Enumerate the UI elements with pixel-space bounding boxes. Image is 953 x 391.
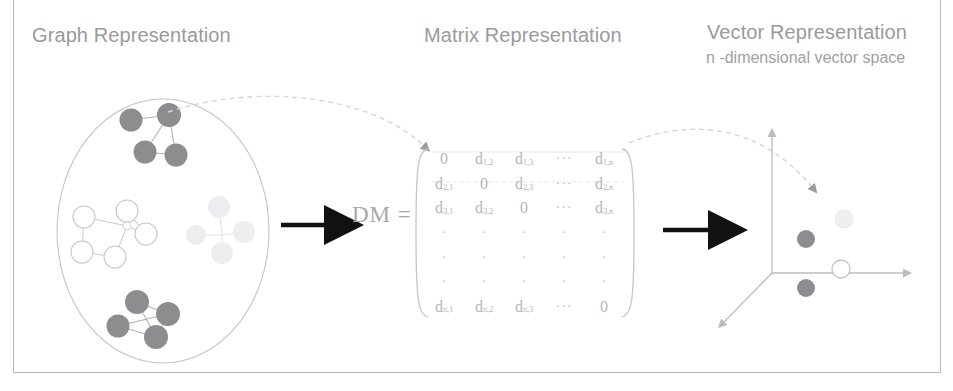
graph-node bbox=[208, 196, 230, 218]
vector-point-faint bbox=[835, 210, 853, 228]
graph-node bbox=[120, 109, 143, 132]
matrix-ellipsis-v: · bbox=[424, 270, 464, 295]
graph-cluster-bottom-dark bbox=[107, 290, 181, 349]
graph-cluster-left-outline bbox=[71, 200, 157, 268]
graph-node bbox=[156, 302, 180, 326]
graph-node bbox=[186, 225, 206, 245]
graph-node bbox=[211, 242, 233, 264]
dashed-curve-matrix-to-vector bbox=[629, 129, 812, 187]
matrix-ellipsis-v: · bbox=[504, 270, 544, 295]
matrix-ellipsis-v: · bbox=[464, 270, 504, 295]
matrix-ellipsis-v: · bbox=[544, 221, 584, 246]
graph-node bbox=[134, 141, 157, 164]
matrix-ellipsis-v: · bbox=[584, 270, 624, 295]
matrix-equation-label: DM = bbox=[352, 202, 412, 228]
vector-point-outline bbox=[832, 260, 850, 278]
matrix-ellipsis-h: ··· bbox=[544, 172, 584, 197]
matrix-cell: d1,3 bbox=[504, 147, 544, 172]
matrix-cell: d3,2 bbox=[464, 196, 504, 221]
matrix-cell: 0 bbox=[424, 147, 464, 172]
matrix-ellipsis-v: · bbox=[464, 245, 504, 270]
graph-node bbox=[165, 144, 188, 167]
matrix-cell: 0 bbox=[504, 196, 544, 221]
matrix-ellipsis-v: · bbox=[584, 221, 624, 246]
matrix-ellipsis-v: · bbox=[464, 221, 504, 246]
matrix-cell: dn,1 bbox=[424, 294, 464, 319]
matrix-grid: 0d1,2d1,3···d1,nd2,10d2,3···d2,nd3,1d3,2… bbox=[424, 147, 624, 319]
graph-node bbox=[157, 103, 181, 127]
graph-node bbox=[125, 290, 149, 314]
graph-node bbox=[123, 222, 131, 230]
vector-point-dark-upper bbox=[797, 230, 815, 248]
matrix-ellipsis-v: · bbox=[424, 221, 464, 246]
vector-point-dark-lower bbox=[797, 279, 815, 297]
matrix-cell: 0 bbox=[464, 172, 504, 197]
matrix-cell: d3,n bbox=[584, 196, 624, 221]
matrix-ellipsis-v: · bbox=[504, 221, 544, 246]
graph-node bbox=[144, 325, 168, 349]
graph-cluster-top-dark bbox=[120, 103, 188, 167]
matrix-ellipsis-v: · bbox=[424, 245, 464, 270]
graph-node bbox=[71, 241, 93, 263]
matrix-ellipsis-h: ··· bbox=[544, 294, 584, 319]
graph-cluster-right-faint bbox=[186, 196, 255, 264]
graph-node bbox=[73, 206, 95, 228]
graph-node bbox=[233, 221, 255, 243]
matrix-ellipsis-v: · bbox=[584, 245, 624, 270]
matrix-cell: d1,2 bbox=[464, 147, 504, 172]
graph-node bbox=[107, 315, 130, 338]
matrix-cell: d2,3 bbox=[504, 172, 544, 197]
graph-node bbox=[116, 200, 138, 222]
matrix-ellipsis-h: ··· bbox=[544, 147, 584, 172]
matrix-block: 0d1,2d1,3···d1,nd2,10d2,3···d2,nd3,1d3,2… bbox=[406, 143, 640, 323]
matrix-cell: d1,n bbox=[584, 147, 624, 172]
figure-root: Graph Representation Matrix Representati… bbox=[0, 0, 953, 391]
matrix-ellipsis-h: ··· bbox=[544, 196, 584, 221]
matrix-cell: d2,1 bbox=[424, 172, 464, 197]
vector-axes bbox=[723, 135, 905, 323]
z-axis bbox=[723, 273, 772, 323]
graph-node bbox=[135, 223, 157, 245]
matrix-cell: d2,n bbox=[584, 172, 624, 197]
dashed-curve-graph-to-matrix bbox=[168, 96, 424, 146]
matrix-ellipsis-v: · bbox=[504, 245, 544, 270]
matrix-cell: 0 bbox=[584, 294, 624, 319]
graph-node bbox=[104, 246, 126, 268]
matrix-ellipsis-v: · bbox=[544, 245, 584, 270]
matrix-cell: d3,1 bbox=[424, 196, 464, 221]
matrix-cell: dn,2 bbox=[464, 294, 504, 319]
matrix-ellipsis-v: · bbox=[544, 270, 584, 295]
matrix-cell: dn,3 bbox=[504, 294, 544, 319]
